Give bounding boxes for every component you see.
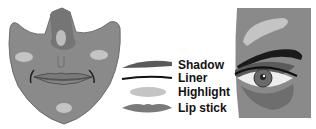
legend-label: Liner — [178, 71, 207, 85]
legend-label: Highlight — [178, 85, 230, 99]
legend-item-liner: Liner — [120, 71, 174, 85]
chin-highlight — [56, 103, 72, 113]
right-cheek-highlight — [90, 50, 108, 60]
highlight-swatch-icon — [120, 85, 174, 99]
liner-swatch-icon — [120, 71, 174, 85]
face-illustration — [0, 0, 130, 129]
legend-item-lipstick: Lip stick — [120, 101, 174, 115]
pupil — [260, 74, 266, 80]
eye-glint — [263, 75, 265, 77]
shadow-swatch-icon — [120, 58, 174, 72]
nose-highlight — [56, 30, 66, 46]
legend-label: Lip stick — [178, 101, 227, 115]
legend-label: Shadow — [178, 58, 224, 72]
legend-item-shadow: Shadow — [120, 58, 174, 72]
lipstick-swatch-icon — [120, 101, 174, 115]
eye-illustration — [233, 6, 313, 120]
left-cheek-highlight — [15, 52, 33, 62]
legend: Shadow Liner Highlight Lip stick — [120, 50, 220, 129]
legend-item-highlight: Highlight — [120, 85, 174, 99]
